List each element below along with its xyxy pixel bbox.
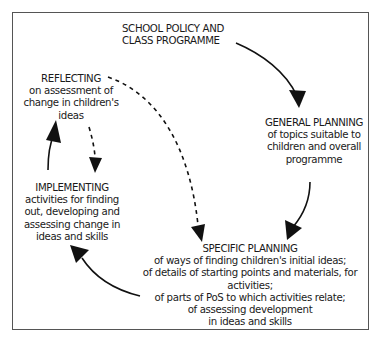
node-title: GENERAL PLANNING: [264, 117, 364, 129]
node-body-line: of topics suitable to: [264, 129, 364, 141]
node-body-line: ideas and skills: [16, 231, 128, 243]
node-body-line: of assessing development: [128, 304, 372, 316]
node-general-planning: GENERAL PLANNING of topics suitable to c…: [264, 117, 364, 166]
node-title: REFLECTING: [16, 73, 126, 85]
node-specific-planning: SPECIFIC PLANNING of ways of finding chi…: [128, 243, 372, 328]
node-body-line: ideas: [16, 110, 126, 122]
node-body-line: assessing change in: [16, 219, 128, 231]
node-body-line: programme: [264, 154, 364, 166]
node-body-line: on assessment of: [16, 85, 126, 97]
node-body-line: activities for finding: [16, 194, 128, 206]
node-body-line: of details of starting points and materi…: [128, 267, 372, 279]
node-body-line: of ways of finding children's initial id…: [128, 255, 372, 267]
node-title: IMPLEMENTING: [16, 182, 128, 194]
arrow-policy-to-general: [236, 43, 306, 108]
node-title: CLASS PROGRAMME: [118, 35, 298, 47]
node-body-line: in ideas and skills: [128, 316, 372, 328]
node-implementing: IMPLEMENTING activities for finding out,…: [16, 182, 128, 243]
arrow-general-to-specific: [285, 182, 310, 240]
node-title: SPECIFIC PLANNING: [128, 243, 372, 255]
arrow-reflecting-to-implementing-dashed: [89, 127, 102, 173]
arrow-implementing-to-reflecting: [46, 120, 61, 170]
node-reflecting: REFLECTING on assessment of change in ch…: [16, 73, 126, 122]
node-body-line: change in children's: [16, 97, 126, 109]
node-body-line: out, developing and: [16, 206, 128, 218]
node-body-line: children and overall: [264, 141, 364, 153]
node-school-policy: SCHOOL POLICY and CLASS PROGRAMME: [118, 23, 298, 47]
node-title: SCHOOL POLICY and: [118, 23, 298, 35]
node-body-line: activities;: [128, 280, 372, 292]
node-body-line: of parts of PoS to which activities rela…: [128, 292, 372, 304]
